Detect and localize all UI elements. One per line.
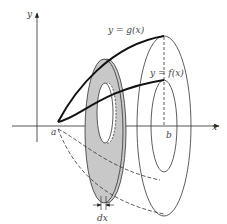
dx-label: dx: [97, 213, 108, 223]
x-axis-label: x: [212, 122, 217, 132]
g-curve-label: y = g(x): [107, 25, 145, 35]
a-label: a: [51, 127, 56, 137]
washer-slice: [85, 59, 126, 203]
b-label: b: [166, 130, 172, 140]
washer-method-diagram: y x y = g(x) y = f(x) a b dx: [0, 0, 227, 224]
y-axis-label: y: [26, 9, 33, 19]
f-curve-label: y = f(x): [149, 68, 184, 78]
